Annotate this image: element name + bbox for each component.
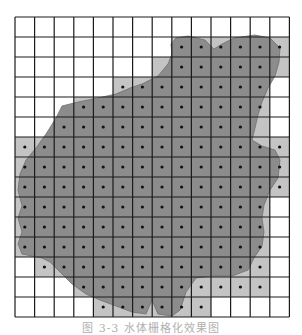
rasterization-figure xyxy=(0,0,302,320)
cell-center-dot xyxy=(62,265,65,268)
cell-center-dot xyxy=(43,205,46,208)
cell-center-dot xyxy=(219,205,222,208)
cell-center-dot xyxy=(121,265,124,268)
cell-center-dot xyxy=(219,85,222,88)
cell-center-dot xyxy=(102,125,105,128)
cell-center-dot xyxy=(23,205,26,208)
cell-center-dot xyxy=(258,165,261,168)
cell-center-dot xyxy=(121,105,124,108)
cell-center-dot xyxy=(258,65,261,68)
cell-center-dot xyxy=(239,105,242,108)
cell-center-dot xyxy=(141,165,144,168)
cell-center-dot xyxy=(180,265,183,268)
cell-center-dot xyxy=(219,285,222,288)
cell-center-dot xyxy=(219,145,222,148)
cell-center-dot xyxy=(23,245,26,248)
cell-center-dot xyxy=(62,225,65,228)
cell-center-dot xyxy=(62,245,65,248)
cell-center-dot xyxy=(160,185,163,188)
cell-center-dot xyxy=(160,125,163,128)
cell-center-dot xyxy=(82,225,85,228)
cell-center-dot xyxy=(62,125,65,128)
cell-center-dot xyxy=(219,65,222,68)
cell-center-dot xyxy=(239,225,242,228)
cell-center-dot xyxy=(278,145,281,148)
cell-center-dot xyxy=(200,185,203,188)
cell-center-dot xyxy=(200,105,203,108)
cell-center-dot xyxy=(258,265,261,268)
cell-center-dot xyxy=(121,205,124,208)
cell-center-dot xyxy=(219,45,222,48)
cell-center-dot xyxy=(258,85,261,88)
cell-center-dot xyxy=(200,265,203,268)
cell-center-dot xyxy=(180,185,183,188)
cell-center-dot xyxy=(102,245,105,248)
cell-center-dot xyxy=(82,125,85,128)
cell-center-dot xyxy=(239,165,242,168)
cell-center-dot xyxy=(180,285,183,288)
cell-center-dot xyxy=(258,245,261,248)
cell-center-dot xyxy=(160,165,163,168)
cell-center-dot xyxy=(102,105,105,108)
cell-center-dot xyxy=(239,45,242,48)
cell-center-dot xyxy=(180,65,183,68)
cell-center-dot xyxy=(219,165,222,168)
cell-center-dot xyxy=(200,165,203,168)
cell-center-dot xyxy=(102,285,105,288)
cell-center-dot xyxy=(200,305,203,308)
cell-center-dot xyxy=(239,205,242,208)
cell-center-dot xyxy=(200,65,203,68)
cell-center-dot xyxy=(141,285,144,288)
cell-center-dot xyxy=(141,105,144,108)
cell-center-dot xyxy=(62,145,65,148)
cell-center-dot xyxy=(180,245,183,248)
cell-center-dot xyxy=(160,245,163,248)
cell-center-dot xyxy=(239,265,242,268)
cell-center-dot xyxy=(121,185,124,188)
cell-center-dot xyxy=(200,45,203,48)
cell-center-dot xyxy=(121,145,124,148)
cell-center-dot xyxy=(121,125,124,128)
cell-center-dot xyxy=(200,285,203,288)
cell-center-dot xyxy=(160,85,163,88)
cell-center-dot xyxy=(219,125,222,128)
cell-center-dot xyxy=(160,145,163,148)
cell-center-dot xyxy=(200,125,203,128)
cell-center-dot xyxy=(258,105,261,108)
cell-center-dot xyxy=(141,85,144,88)
cell-center-dot xyxy=(121,85,124,88)
cell-center-dot xyxy=(82,165,85,168)
cell-center-dot xyxy=(180,145,183,148)
cell-center-dot xyxy=(82,265,85,268)
cell-center-dot xyxy=(258,285,261,288)
cell-center-dot xyxy=(200,205,203,208)
cell-center-dot xyxy=(180,205,183,208)
cell-center-dot xyxy=(141,185,144,188)
cell-center-dot xyxy=(160,105,163,108)
cell-center-dot xyxy=(102,265,105,268)
cell-center-dot xyxy=(23,145,26,148)
cell-center-dot xyxy=(141,225,144,228)
cell-center-dot xyxy=(23,165,26,168)
cell-center-dot xyxy=(43,245,46,248)
figure-caption: 图 3-3 水体栅格化效果图 xyxy=(0,319,302,335)
cell-center-dot xyxy=(141,305,144,308)
cell-center-dot xyxy=(102,305,105,308)
cell-center-dot xyxy=(121,285,124,288)
cell-center-dot xyxy=(258,45,261,48)
cell-center-dot xyxy=(160,205,163,208)
cell-center-dot xyxy=(239,185,242,188)
cell-center-dot xyxy=(278,45,281,48)
cell-center-dot xyxy=(180,45,183,48)
cell-center-dot xyxy=(200,225,203,228)
cell-center-dot xyxy=(43,225,46,228)
cell-center-dot xyxy=(160,225,163,228)
cell-center-dot xyxy=(258,145,261,148)
cell-center-dot xyxy=(62,185,65,188)
cell-center-dot xyxy=(258,225,261,228)
cell-center-dot xyxy=(82,105,85,108)
cell-center-dot xyxy=(121,305,124,308)
cell-center-dot xyxy=(160,285,163,288)
cell-center-dot xyxy=(180,165,183,168)
raster-grid-diagram xyxy=(0,0,302,320)
